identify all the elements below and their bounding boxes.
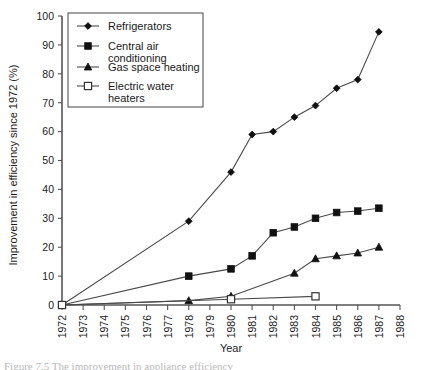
data-point (249, 253, 256, 260)
y-axis: 0102030405060708090100 (36, 10, 62, 311)
legend-label: Gas space heating (108, 61, 200, 73)
series-line (62, 247, 379, 305)
data-point (227, 296, 234, 303)
y-axis-tick-label: 80 (42, 68, 54, 80)
y-axis-tick-label: 10 (42, 270, 54, 282)
data-point (291, 224, 298, 231)
x-axis-tick-label: 1985 (331, 315, 343, 339)
y-axis-title: Improvement in efficiency since 1972 (%) (7, 65, 19, 266)
x-axis-tick-label: 1973 (77, 315, 89, 339)
legend-marker (86, 24, 90, 28)
x-axis-tick-label: 1986 (352, 315, 364, 339)
figure-caption: Figure 7.5 The improvement in appliance … (4, 361, 414, 370)
data-point (250, 133, 254, 137)
data-point (377, 30, 381, 34)
data-point (292, 115, 296, 119)
y-axis-tick-label: 70 (42, 97, 54, 109)
y-axis-tick-label: 0 (48, 299, 54, 311)
y-axis-tick-label: 20 (42, 241, 54, 253)
data-point (228, 266, 235, 273)
y-axis-tick-label: 60 (42, 125, 54, 137)
data-point (314, 104, 318, 108)
x-axis-tick-label: 1987 (373, 315, 385, 339)
x-axis-tick-label: 1981 (246, 315, 258, 339)
y-axis-tick-label: 100 (36, 10, 54, 22)
data-point (356, 78, 360, 82)
data-point (354, 208, 361, 215)
legend-marker (85, 43, 92, 50)
y-axis-tick-label: 30 (42, 212, 54, 224)
data-point (335, 86, 339, 90)
x-axis-tick-label: 1980 (225, 315, 237, 339)
x-axis-tick-label: 1976 (141, 315, 153, 339)
legend-marker (84, 82, 91, 89)
legend-label: Central air (108, 40, 159, 52)
data-point (291, 269, 299, 276)
data-point (229, 170, 233, 174)
data-point (312, 293, 319, 300)
data-point (187, 219, 191, 223)
legend-label: Refrigerators (108, 20, 172, 32)
x-axis: 1972197319741975197619771978197919801981… (56, 305, 406, 338)
x-axis-tick-label: 1983 (288, 315, 300, 339)
data-point (312, 215, 319, 222)
data-point (376, 205, 383, 212)
data-point (271, 130, 275, 134)
data-point (58, 301, 65, 308)
y-axis-tick-label: 50 (42, 154, 54, 166)
y-axis-tick-label: 40 (42, 183, 54, 195)
x-axis-tick-label: 1972 (56, 315, 68, 339)
x-axis-tick-label: 1977 (162, 315, 174, 339)
x-axis-tick-label: 1979 (204, 315, 216, 339)
data-point (333, 209, 340, 216)
chart-legend: RefrigeratorsCentral airconditioningGas … (68, 13, 203, 107)
x-axis-tick-label: 1978 (183, 315, 195, 339)
x-axis-tick-label: 1975 (119, 315, 131, 339)
x-axis-tick-label: 1988 (394, 315, 406, 339)
x-axis-tick-label: 1984 (310, 315, 322, 339)
x-axis-tick-label: 1982 (267, 315, 279, 339)
y-axis-tick-label: 90 (42, 39, 54, 51)
x-axis-title: Year (220, 342, 243, 354)
data-point (185, 273, 192, 280)
x-axis-tick-label: 1974 (98, 315, 110, 339)
data-point (375, 243, 383, 250)
data-point (270, 229, 277, 236)
legend-label: Electric water (108, 80, 174, 92)
legend-label-continued: heaters (108, 92, 145, 104)
